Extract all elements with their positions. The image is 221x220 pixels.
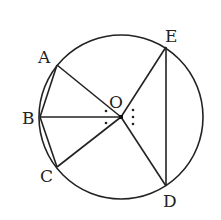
label-c: C	[40, 166, 53, 186]
radius-od	[121, 117, 166, 186]
label-d: D	[163, 191, 177, 211]
geometry-diagram: O A B C D E	[0, 0, 221, 220]
label-a: A	[37, 47, 51, 67]
radius-oe	[121, 47, 166, 117]
radius-oc	[57, 117, 121, 167]
label-b: B	[22, 108, 35, 128]
center-point	[119, 115, 123, 119]
label-o: O	[109, 92, 123, 112]
label-e: E	[165, 26, 177, 46]
